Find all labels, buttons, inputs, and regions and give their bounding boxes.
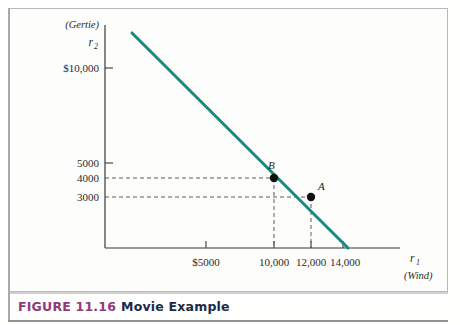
svg-text:2: 2 — [94, 42, 98, 51]
y-tick-label-10000: $10,000 — [63, 62, 99, 74]
data-point-b — [270, 174, 278, 182]
svg-text:r: r — [410, 252, 415, 264]
y-axis-sublabel: (Gertie) — [65, 19, 99, 31]
x-tick-label-10000: 10,000 — [259, 256, 290, 268]
figure-caption: FIGURE 11.16Movie Example — [18, 299, 230, 314]
data-point-b-label: B — [268, 159, 275, 171]
y-axis-label: r 2 — [89, 36, 98, 51]
x-tick-label-14000: 14,000 — [330, 256, 361, 268]
figure-title: Movie Example — [121, 299, 230, 314]
y-tick-label-4000: 4000 — [77, 172, 100, 184]
figure-number: FIGURE 11.16 — [18, 299, 116, 314]
caption-bottom-rule — [8, 320, 448, 322]
y-tick-label-5000: 5000 — [77, 157, 100, 169]
svg-text:1: 1 — [416, 258, 420, 267]
budget-line — [132, 33, 348, 248]
x-axis-sublabel: (Wind) — [404, 270, 433, 282]
svg-text:r: r — [89, 36, 94, 48]
data-point-a-label: A — [317, 180, 325, 192]
data-point-a — [307, 193, 315, 201]
caption-left-rule — [8, 292, 10, 322]
chart-canvas: B A $10,000 5000 4000 3000 $5000 10,000 … — [0, 0, 460, 325]
figure-page: B A $10,000 5000 4000 3000 $5000 10,000 … — [0, 0, 460, 325]
x-tick-label-12000: 12,000 — [296, 256, 327, 268]
y-tick-label-3000: 3000 — [77, 191, 100, 203]
x-axis-label: r 1 — [410, 252, 420, 267]
x-tick-label-5000: $5000 — [192, 256, 220, 268]
caption-top-rule — [8, 292, 448, 294]
